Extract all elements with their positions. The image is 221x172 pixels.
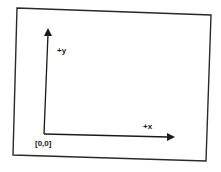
y-axis-label: +y <box>57 46 67 55</box>
origin-label: [0,0] <box>35 139 52 148</box>
diagram-canvas: +y +x [0,0] <box>0 0 221 172</box>
coordinate-diagram: +y +x [0,0] <box>0 0 221 172</box>
x-axis-label: +x <box>143 122 153 131</box>
